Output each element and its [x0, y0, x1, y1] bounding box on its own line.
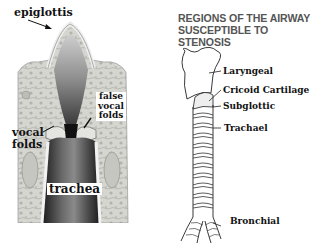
- region-label-cricoid-cartilage: Cricoid Cartilage: [223, 86, 309, 95]
- region-label-subglottic: Subglottic: [223, 102, 275, 111]
- label-vocal-folds: vocal folds: [12, 127, 44, 151]
- vocal-folds-line2: folds: [12, 139, 44, 151]
- label-trachea: trachea: [47, 183, 102, 195]
- title-line1: REGIONS OF THE AIRWAY: [178, 12, 321, 24]
- region-label-trachael: Trachael: [224, 124, 268, 133]
- region-label-laryngeal: Laryngeal: [223, 67, 273, 76]
- label-epiglottis: epiglottis: [14, 7, 73, 18]
- false-vocal-folds-line3: folds: [98, 111, 124, 121]
- region-label-bronchial: Bronchial: [230, 217, 280, 226]
- label-false-vocal-folds: false vocal folds: [96, 92, 126, 121]
- figure-title: REGIONS OF THE AIRWAY SUSCEPTIBLE TO STE…: [178, 12, 321, 48]
- epiglottis-arrow-icon: [26, 18, 56, 32]
